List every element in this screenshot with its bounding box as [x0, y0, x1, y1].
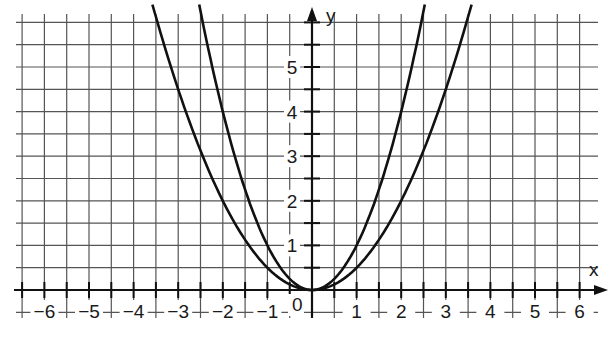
x-tick-label: 1 [351, 301, 362, 322]
x-tick-label: 2 [396, 301, 407, 322]
y-tick-label: 1 [287, 235, 298, 256]
x-tick-label: 4 [485, 301, 496, 322]
x-tick-label: −4 [123, 301, 145, 322]
axes [14, 7, 608, 318]
y-tick-label: 3 [287, 146, 298, 167]
y-axis-arrow-icon [307, 7, 317, 21]
x-tick-label: −2 [212, 301, 234, 322]
x-tick-label: −6 [34, 301, 56, 322]
x-axis-label: x [589, 259, 599, 280]
x-tick-label: 3 [441, 301, 452, 322]
x-tick-label: 6 [574, 301, 585, 322]
parabola-chart: −6−5−4−3−2−112345612345 xy0 [0, 0, 614, 343]
x-tick-label: 5 [530, 301, 541, 322]
x-tick-label: −3 [167, 301, 189, 322]
y-tick-label: 4 [287, 102, 298, 123]
x-axis-arrow-icon [594, 285, 608, 295]
grid-lines [16, 14, 598, 318]
y-axis-label: y [326, 5, 336, 26]
y-tick-label: 5 [287, 57, 298, 78]
origin-label: 0 [292, 294, 303, 315]
x-tick-label: −5 [78, 301, 100, 322]
y-tick-label: 2 [287, 191, 298, 212]
x-tick-label: −1 [257, 301, 279, 322]
